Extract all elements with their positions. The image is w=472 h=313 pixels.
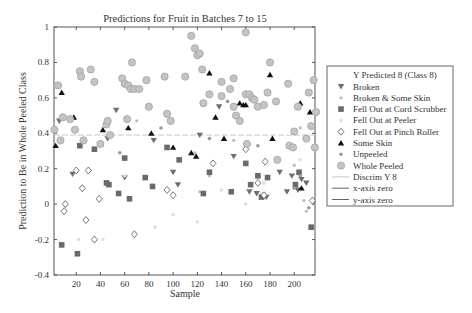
- data-point: [62, 201, 68, 208]
- data-point: [308, 123, 315, 130]
- data-point: [54, 82, 61, 89]
- data-point: [284, 189, 290, 194]
- data-point: [118, 151, 122, 155]
- x-tick-label: 140: [215, 279, 229, 289]
- legend-label: x-axis zero: [353, 183, 393, 193]
- data-point: [170, 144, 176, 149]
- data-point: [299, 126, 302, 129]
- data-point: [59, 242, 65, 248]
- legend-label: Some Skin: [353, 138, 393, 148]
- x-tick-label: 160: [239, 279, 253, 289]
- legend-marker-icon: [339, 153, 343, 157]
- scatter-chart: Predictions for Fruit in Batches 7 to 15…: [0, 0, 472, 313]
- series-broken-some-skin: [135, 119, 308, 213]
- data-point: [312, 108, 319, 115]
- data-point: [276, 170, 282, 175]
- data-point: [188, 32, 195, 39]
- data-point: [292, 186, 296, 190]
- data-point: [289, 173, 295, 178]
- data-point: [170, 192, 176, 199]
- data-point: [302, 199, 305, 202]
- data-point: [116, 191, 122, 197]
- data-point: [221, 136, 227, 141]
- data-point: [272, 98, 279, 105]
- data-point: [243, 140, 250, 147]
- data-point: [128, 59, 135, 66]
- x-tick-label: 40: [96, 279, 106, 289]
- data-point: [309, 197, 315, 204]
- data-point: [310, 77, 317, 84]
- data-point: [236, 117, 243, 124]
- data-point: [291, 128, 298, 135]
- data-point: [232, 139, 235, 142]
- y-axis-label: Prediction to Be in Whole Peeled Class: [17, 72, 28, 230]
- data-point: [298, 177, 304, 182]
- data-point: [230, 103, 237, 110]
- data-point: [151, 138, 157, 143]
- data-point: [262, 158, 268, 165]
- data-point: [148, 130, 154, 135]
- data-point: [85, 167, 91, 174]
- data-point: [104, 117, 111, 124]
- data-point: [127, 196, 133, 202]
- data-point: [164, 186, 170, 193]
- data-point: [230, 75, 237, 82]
- legend-label: Fell Out at Cord Scrubber: [353, 104, 447, 114]
- y-tick-label: 0: [45, 199, 50, 209]
- data-point: [176, 157, 182, 163]
- data-point: [264, 89, 271, 96]
- data-point: [293, 164, 296, 167]
- data-point: [206, 70, 212, 75]
- data-point: [248, 182, 254, 188]
- data-point: [308, 224, 314, 230]
- data-point: [159, 126, 163, 130]
- data-point: [246, 189, 252, 194]
- data-point: [269, 136, 275, 141]
- data-point: [71, 126, 78, 133]
- data-point: [59, 114, 66, 121]
- data-point: [75, 251, 81, 257]
- data-point: [255, 179, 261, 186]
- data-point: [122, 155, 128, 161]
- data-point: [136, 85, 143, 92]
- data-point: [218, 78, 225, 85]
- data-point: [303, 135, 310, 142]
- legend-label: y-axis zero: [353, 195, 393, 205]
- data-point: [150, 184, 156, 190]
- legend-label: Fell Out at Pinch Roller: [353, 127, 439, 137]
- data-point: [267, 72, 273, 77]
- data-point: [51, 126, 58, 133]
- data-point: [303, 180, 309, 185]
- data-point: [196, 220, 200, 224]
- data-point: [265, 175, 271, 181]
- data-point: [125, 125, 131, 130]
- data-point: [193, 153, 199, 158]
- data-point: [260, 101, 267, 108]
- data-point: [196, 50, 203, 57]
- data-point: [79, 185, 85, 192]
- data-point: [255, 173, 261, 179]
- data-point: [58, 90, 64, 95]
- data-point: [153, 225, 157, 229]
- data-point: [123, 174, 127, 178]
- data-point: [307, 206, 311, 210]
- data-point: [256, 144, 260, 148]
- chart-title: Predictions for Fruit in Batches 7 to 15: [103, 13, 267, 24]
- data-point: [298, 174, 302, 178]
- x-tick-label: 80: [144, 279, 154, 289]
- legend-label: Broken & Some Skin: [353, 93, 431, 103]
- data-point: [294, 103, 301, 110]
- y-tick-label: -0.2: [35, 235, 49, 245]
- data-point: [200, 100, 207, 107]
- data-point: [96, 195, 102, 202]
- y-tick-label: 1: [45, 22, 50, 32]
- y-tick-label: 0.6: [38, 93, 50, 103]
- data-points: [51, 29, 320, 257]
- y-tick-label: 0.4: [38, 128, 50, 138]
- data-point: [298, 158, 302, 162]
- data-point: [228, 189, 234, 195]
- data-point: [210, 160, 216, 167]
- legend-marker-icon: [338, 106, 344, 112]
- x-axis-label: Sample: [170, 288, 201, 299]
- data-point: [305, 210, 308, 213]
